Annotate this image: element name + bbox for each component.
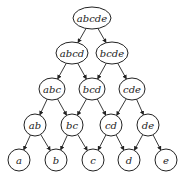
- lattice-svg: abcdeabcdbcdeabcbcdcdeabbccddeabcde: [0, 0, 184, 184]
- edge-abcde-bcde: [98, 28, 106, 42]
- node-label: bcde: [100, 48, 124, 59]
- edge-abc-ab: [40, 99, 47, 115]
- arrow-icon: [78, 63, 87, 79]
- node-bcd: bcd: [79, 78, 105, 100]
- edge-abcde-abcd: [78, 28, 86, 42]
- node-de: de: [137, 114, 159, 136]
- arrow-icon: [118, 63, 127, 79]
- edge-bcd-bc: [77, 99, 86, 115]
- node-label: e: [163, 155, 169, 166]
- node-label: bcd: [83, 84, 101, 95]
- edge-abcd-abc: [58, 63, 67, 79]
- arrow-icon: [41, 134, 51, 150]
- nodes: abcdeabcdbcdeabcbcdcdeabbccddeabcde: [8, 7, 177, 171]
- arrow-icon: [137, 99, 144, 115]
- edge-bcde-bcd: [98, 63, 107, 79]
- node-abcd: abcd: [56, 42, 88, 64]
- arrow-icon: [24, 135, 31, 150]
- node-abcde: abcde: [73, 7, 111, 29]
- node-ab: ab: [24, 114, 46, 136]
- edge-cd-d: [116, 135, 124, 150]
- arrow-icon: [97, 99, 106, 115]
- node-label: cd: [105, 120, 117, 131]
- arrow-icon: [98, 135, 106, 150]
- node-label: bc: [66, 120, 78, 131]
- node-label: de: [142, 120, 154, 131]
- node-label: cde: [123, 84, 141, 95]
- arrow-icon: [58, 99, 67, 115]
- arrow-icon: [98, 28, 106, 42]
- edge-bc-b: [61, 135, 68, 150]
- edge-abcd-bcd: [78, 63, 87, 79]
- node-bcde: bcde: [96, 42, 128, 64]
- node-e: e: [155, 149, 177, 171]
- node-label: ab: [29, 120, 41, 131]
- arrow-icon: [78, 134, 88, 150]
- node-a: a: [8, 149, 30, 171]
- node-label: a: [16, 155, 22, 166]
- edge-de-e: [153, 135, 161, 150]
- arrow-icon: [98, 63, 107, 79]
- arrow-icon: [153, 135, 161, 150]
- node-label: abcde: [77, 13, 107, 24]
- node-label: d: [126, 155, 132, 166]
- edge-bcd-cd: [97, 99, 106, 115]
- edge-cd-c: [98, 135, 106, 150]
- node-abc: abc: [39, 78, 65, 100]
- node-b: b: [45, 149, 67, 171]
- arrow-icon: [117, 99, 127, 116]
- node-cde: cde: [119, 78, 145, 100]
- arrow-icon: [40, 99, 47, 115]
- node-d: d: [118, 149, 140, 171]
- node-label: c: [90, 155, 96, 166]
- node-cd: cd: [100, 114, 122, 136]
- arrow-icon: [116, 135, 124, 150]
- arrow-icon: [78, 28, 86, 42]
- edge-cde-de: [137, 99, 144, 115]
- arrow-icon: [61, 135, 68, 150]
- node-label: abcd: [60, 48, 84, 59]
- node-label: abc: [43, 84, 61, 95]
- edge-de-d: [134, 135, 143, 151]
- node-c: c: [82, 149, 104, 171]
- arrow-icon: [77, 99, 86, 115]
- edge-bcde-cde: [118, 63, 127, 79]
- node-bc: bc: [61, 114, 83, 136]
- edge-abc-bc: [58, 99, 67, 115]
- edge-cde-cd: [117, 99, 127, 116]
- arrow-icon: [134, 135, 143, 151]
- node-label: b: [53, 155, 59, 166]
- edge-ab-a: [24, 135, 31, 150]
- edge-ab-b: [41, 134, 51, 150]
- lattice-diagram: abcdeabcdbcdeabcbcdcdeabbccddeabcde: [0, 0, 184, 184]
- edge-bc-c: [78, 134, 88, 150]
- arrow-icon: [58, 63, 67, 79]
